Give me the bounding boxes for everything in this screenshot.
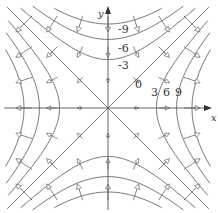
arrowhead-icon bbox=[77, 27, 82, 33]
level-label-neg3: -3 bbox=[118, 59, 129, 72]
arrowhead-icon bbox=[47, 133, 52, 137]
axes: x y bbox=[4, 6, 217, 210]
arrowhead-icon bbox=[135, 184, 140, 190]
y-axis-arrow-icon bbox=[105, 6, 111, 14]
level-label-neg9: -9 bbox=[118, 23, 129, 36]
x-axis-arrow-icon bbox=[204, 105, 212, 111]
arrowhead-icon bbox=[16, 133, 22, 138]
arrowhead-icon bbox=[16, 79, 22, 84]
arrowhead-icon bbox=[165, 133, 170, 137]
level-label-9: 9 bbox=[175, 86, 182, 99]
y-axis-label: y bbox=[97, 8, 104, 19]
vector-field-plot: x y -9 -6 -3 0 3 6 9 bbox=[0, 0, 218, 213]
arrowhead-icon bbox=[47, 79, 52, 83]
arrowhead-icon bbox=[135, 159, 139, 164]
level-labels: -9 -6 -3 0 3 6 9 bbox=[118, 23, 182, 99]
arrowhead-icon bbox=[135, 53, 139, 58]
arrowhead-icon bbox=[165, 79, 170, 83]
level-label-0: 0 bbox=[135, 78, 142, 91]
level-label-3: 3 bbox=[151, 86, 158, 99]
arrowhead-icon bbox=[195, 79, 201, 84]
arrowhead-icon bbox=[77, 159, 81, 164]
level-label-neg6: -6 bbox=[118, 42, 129, 55]
arrowhead-icon bbox=[135, 27, 140, 33]
level-label-6: 6 bbox=[163, 86, 170, 99]
arrowhead-icon bbox=[77, 184, 82, 190]
arrowhead-icon bbox=[195, 133, 201, 138]
arrowhead-icon bbox=[77, 53, 81, 58]
x-axis-label: x bbox=[211, 112, 217, 123]
